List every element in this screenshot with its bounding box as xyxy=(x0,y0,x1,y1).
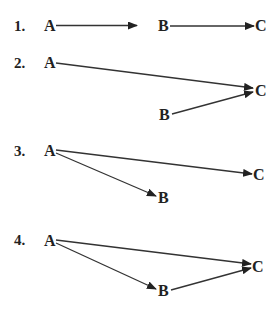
node-c: C xyxy=(255,82,267,99)
diagram-number: 3. xyxy=(14,143,26,159)
diagram-number: 1. xyxy=(14,18,26,34)
node-c: C xyxy=(255,17,267,34)
causal-diagrams: 1. A B C 2. A B C 3. A B C 4. A B C xyxy=(0,0,279,310)
node-b: B xyxy=(158,189,169,206)
node-a: A xyxy=(44,232,56,249)
node-a: A xyxy=(44,54,56,71)
edge-b-to-c xyxy=(172,92,253,114)
node-c: C xyxy=(253,166,265,183)
node-b: B xyxy=(158,282,169,299)
node-a: A xyxy=(44,142,56,159)
diagram-number: 2. xyxy=(14,55,26,71)
diagram-number: 4. xyxy=(14,232,26,248)
node-c: C xyxy=(252,258,264,275)
node-b: B xyxy=(159,106,170,123)
diagram-1: 1. A B C xyxy=(14,17,267,34)
edge-a-to-b xyxy=(56,153,156,196)
edge-a-to-c xyxy=(56,240,251,264)
node-b: B xyxy=(158,17,169,34)
edge-b-to-c xyxy=(171,268,251,290)
diagram-2: 2. A B C xyxy=(14,54,267,123)
diagram-4: 4. A B C xyxy=(14,232,264,299)
diagram-3: 3. A B C xyxy=(14,142,265,206)
edge-a-to-c xyxy=(56,150,252,174)
edge-a-to-c xyxy=(56,63,253,88)
node-a: A xyxy=(44,17,56,34)
